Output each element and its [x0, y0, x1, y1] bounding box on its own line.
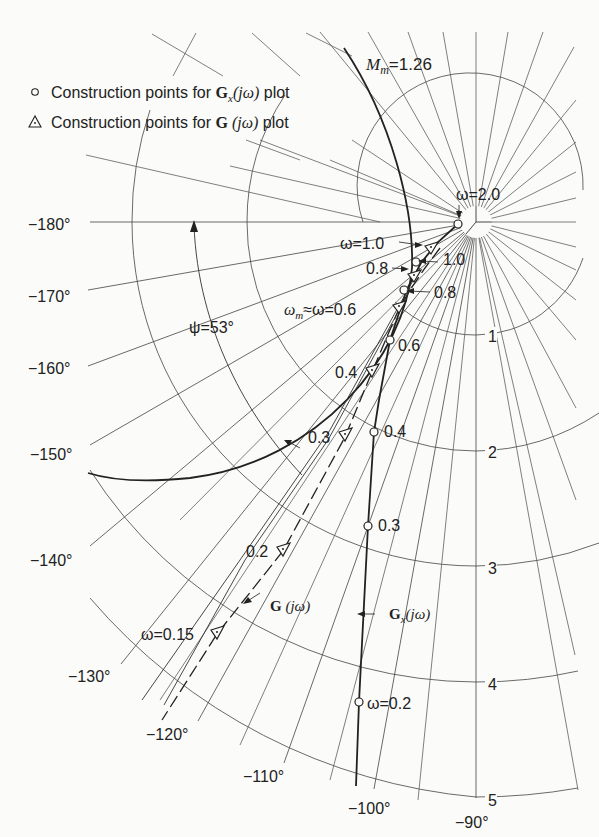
svg-text:0.2: 0.2: [246, 543, 268, 560]
svg-text:−110°: −110°: [243, 768, 284, 785]
polar-chart: Construction points for Gx(jω) plot Cons…: [0, 0, 599, 837]
omega-m-label: ωm≈ω=0.6: [284, 301, 356, 321]
circle-marker-icon: [32, 89, 39, 96]
svg-text:0.3: 0.3: [308, 429, 330, 446]
svg-text:−100°: −100°: [348, 800, 390, 817]
magnitude-labels: 1 2 3 4 5: [485, 327, 497, 809]
svg-text:0.8: 0.8: [366, 260, 388, 277]
svg-text:−150°: −150°: [30, 446, 72, 463]
mm-label: Mm=1.26: [365, 55, 432, 77]
svg-text:−170°: −170°: [28, 288, 70, 305]
svg-text:0.6: 0.6: [398, 337, 420, 354]
svg-text:ω=0.2: ω=0.2: [367, 695, 411, 712]
svg-text:5: 5: [488, 792, 497, 809]
svg-text:1.0: 1.0: [443, 251, 465, 268]
svg-text:−180°: −180°: [28, 216, 70, 233]
svg-text:ω=0.15: ω=0.15: [141, 626, 194, 643]
triangle-marker-icon: [29, 116, 41, 127]
gx-curve-label: Gx(jω): [389, 606, 430, 625]
svg-text:0.3: 0.3: [378, 517, 400, 534]
svg-text:3: 3: [488, 560, 497, 577]
m-circle-curve: [88, 48, 412, 480]
phase-radials: [86, 32, 578, 800]
psi-label: ψ=53°: [189, 319, 234, 336]
svg-text:1: 1: [488, 328, 497, 345]
leader-arrowheads: [243, 211, 462, 617]
legend: Construction points for Gx(jω) plot Cons…: [29, 84, 290, 132]
svg-text:4: 4: [488, 676, 497, 693]
polar-plot-figure: Construction points for Gx(jω) plot Cons…: [0, 0, 599, 837]
omega-1-label: ω=1.0: [340, 235, 384, 252]
svg-text:−130°: −130°: [68, 668, 110, 685]
g-curve-label: G (jω): [270, 598, 310, 615]
svg-text:−90°: −90°: [455, 814, 489, 831]
gx-point-labels: 0.3 0.4 0.6 ω=0.2: [367, 337, 420, 712]
legend-triangle-label: Construction points for G (jω) plot: [51, 114, 289, 132]
svg-text:−160°: −160°: [28, 360, 70, 377]
legend-circle-label: Construction points for Gx(jω) plot: [51, 84, 290, 104]
svg-text:0.8: 0.8: [434, 284, 456, 301]
svg-text:−120°: −120°: [146, 726, 188, 743]
phase-labels: −180° −170° −160° −150° −140° −130° −120…: [28, 216, 489, 831]
svg-text:0.4: 0.4: [335, 364, 357, 381]
svg-text:−140°: −140°: [30, 552, 72, 569]
omega-2-label: ω=2.0: [456, 186, 500, 203]
svg-text:0.4: 0.4: [384, 423, 406, 440]
svg-text:2: 2: [488, 444, 497, 461]
